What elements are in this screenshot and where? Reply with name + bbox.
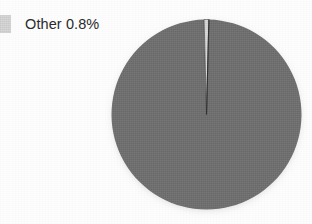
chart-canvas: Other 0.8% [0, 0, 312, 224]
legend-swatch-other [0, 15, 11, 33]
pie-chart [111, 19, 302, 210]
chart-legend: Other 0.8% [0, 15, 99, 33]
pie-svg [111, 19, 302, 210]
legend-label-other: Other 0.8% [25, 15, 99, 33]
